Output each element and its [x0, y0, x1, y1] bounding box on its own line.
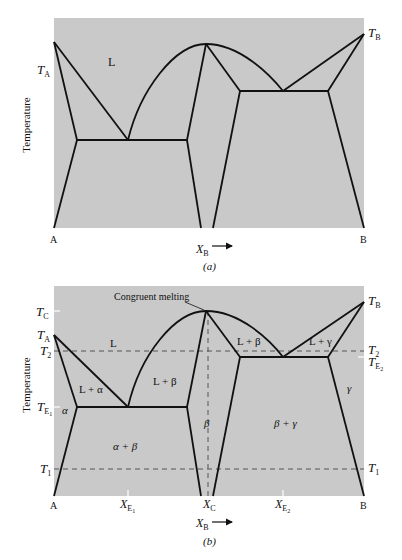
svg-text:TB: TB: [368, 25, 381, 42]
region-label-l-beta-right: L + β: [237, 335, 261, 347]
y-axis-label-a: Temperature: [20, 97, 32, 153]
svg-text:XB: XB: [195, 242, 209, 258]
temp-label-ta: TA: [37, 62, 50, 79]
component-label-b-left: A: [50, 500, 58, 511]
region-label-l-alpha: L + α: [79, 383, 103, 395]
component-label-a-left: A: [50, 234, 58, 245]
region-label-beta-gamma: β + γ: [273, 417, 297, 429]
temp-label-tb: TB: [368, 293, 381, 310]
phase-diagrams-figure: L TA TB Temperature A B XB (a): [0, 0, 402, 560]
region-label-liquid: L: [110, 337, 117, 349]
composition-label-xc: XC: [202, 497, 216, 513]
x-axis-label-b: XB: [195, 516, 232, 532]
temp-label-te1: TE1: [37, 399, 52, 417]
x-axis-label-a: XB: [195, 242, 232, 258]
region-label-l-beta-left: L + β: [153, 375, 177, 387]
region-label-liquid: L: [108, 55, 115, 69]
composition-label-xe2: XE2: [274, 497, 290, 514]
temp-label-t1-right: T1: [368, 460, 379, 477]
temp-label-tb: TB: [368, 25, 381, 42]
temp-label-t1-left: T1: [40, 461, 51, 478]
diagram-b: Congruent melting L L + α L + β L + β L …: [20, 286, 383, 548]
temp-label-t2-left: T2: [40, 343, 51, 360]
temp-label-tc: TC: [36, 304, 49, 321]
y-axis-label-b: Temperature: [20, 357, 32, 413]
svg-text:Congruent melting: Congruent melting: [114, 291, 189, 302]
component-label-a-right: B: [360, 234, 367, 245]
svg-text:XB: XB: [195, 516, 209, 532]
svg-text:TA: TA: [37, 62, 50, 79]
region-label-alpha: α: [62, 404, 68, 416]
region-label-alpha-beta: α + β: [113, 440, 138, 452]
temp-label-ta: TA: [37, 327, 50, 344]
diagram-a: L TA TB Temperature A B XB (a): [20, 18, 381, 273]
caption-a: (a): [203, 260, 216, 273]
caption-b: (b): [203, 535, 216, 548]
composition-label-xe1: XE1: [119, 497, 135, 514]
region-label-gamma: γ: [347, 382, 352, 394]
component-label-b-right: B: [360, 500, 367, 511]
region-label-l-gamma: L + γ: [309, 335, 332, 347]
region-label-beta: β: [203, 417, 210, 429]
